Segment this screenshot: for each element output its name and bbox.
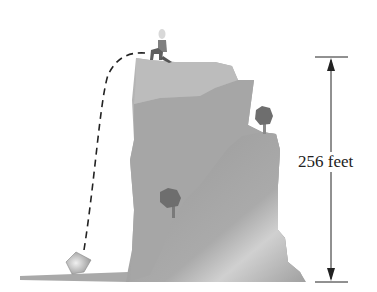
cliff-diagram <box>0 0 377 292</box>
arrow-down-icon <box>327 268 335 281</box>
height-label: 256 feet <box>296 152 355 172</box>
person-on-cliff-top <box>150 29 172 63</box>
arrow-up-icon <box>327 58 335 71</box>
tree-upper-right-ledge <box>255 106 273 134</box>
falling-object <box>66 252 91 274</box>
